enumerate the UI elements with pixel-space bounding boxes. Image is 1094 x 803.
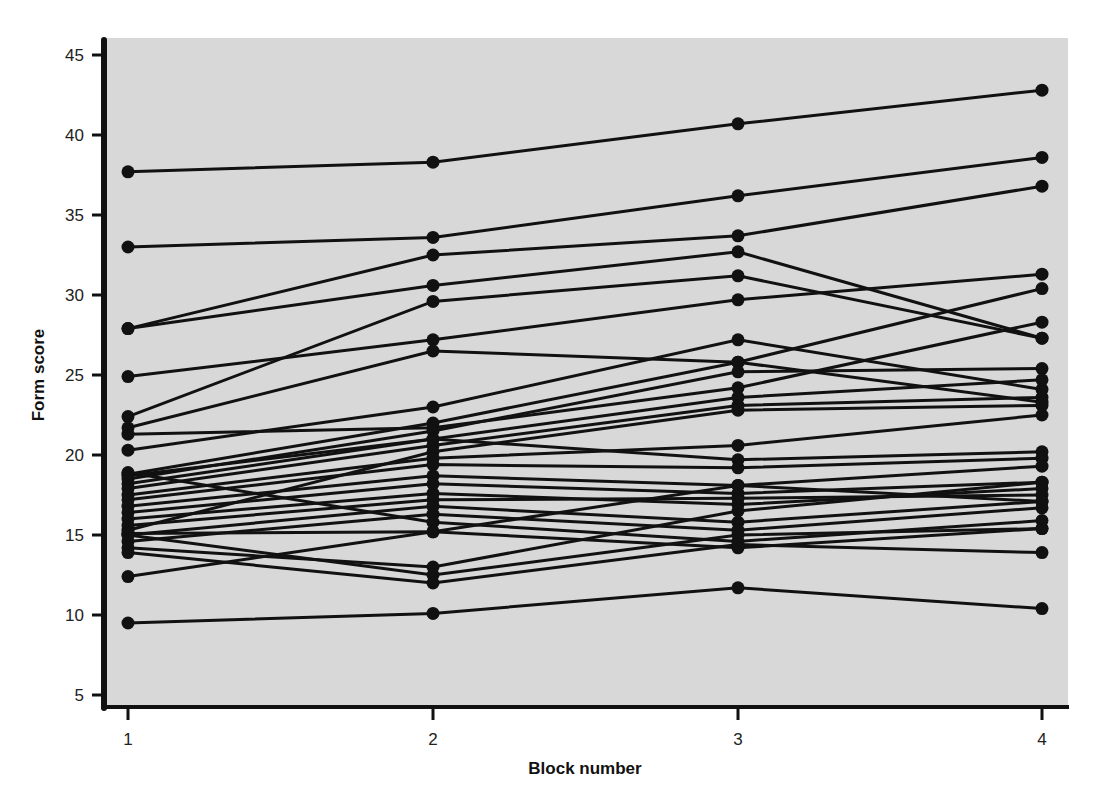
data-point (122, 466, 135, 479)
data-point (1036, 151, 1049, 164)
x-tick-label: 3 (733, 730, 742, 749)
data-point (1036, 522, 1049, 535)
y-axis-ticks: 51015202530354045 (65, 46, 104, 705)
y-axis-title: Form score (29, 329, 48, 422)
data-point (732, 492, 745, 505)
data-point (427, 458, 440, 471)
data-point (732, 117, 745, 130)
data-point (427, 525, 440, 538)
y-tick-label: 40 (65, 126, 84, 145)
data-point (427, 231, 440, 244)
data-point (427, 279, 440, 292)
data-point (122, 444, 135, 457)
data-point (1036, 84, 1049, 97)
data-point (1036, 602, 1049, 615)
data-point (732, 505, 745, 518)
data-point (122, 410, 135, 423)
y-tick-label: 45 (65, 46, 84, 65)
data-point (427, 249, 440, 262)
data-point (732, 189, 745, 202)
y-tick-label: 20 (65, 446, 84, 465)
data-point (122, 617, 135, 630)
data-point (732, 581, 745, 594)
data-point (427, 433, 440, 446)
data-point (732, 269, 745, 282)
y-tick-label: 15 (65, 526, 84, 545)
data-point (1036, 476, 1049, 489)
data-point (427, 156, 440, 169)
data-point (427, 345, 440, 358)
data-point (1036, 332, 1049, 345)
data-point (427, 401, 440, 414)
data-point (122, 428, 135, 441)
data-point (122, 370, 135, 383)
data-point (427, 295, 440, 308)
data-point (122, 241, 135, 254)
data-point (732, 439, 745, 452)
data-point (122, 322, 135, 335)
data-point (1036, 373, 1049, 386)
data-point (122, 546, 135, 559)
data-point (427, 577, 440, 590)
data-point (732, 365, 745, 378)
data-point (1036, 180, 1049, 193)
y-tick-label: 5 (75, 686, 84, 705)
data-point (732, 538, 745, 551)
data-point (122, 570, 135, 583)
x-axis-ticks: 1234 (123, 707, 1046, 749)
data-point (1036, 546, 1049, 559)
data-point (122, 529, 135, 542)
y-tick-label: 10 (65, 606, 84, 625)
data-point (122, 165, 135, 178)
data-point (427, 607, 440, 620)
data-point (1036, 362, 1049, 375)
data-point (1036, 282, 1049, 295)
data-point (732, 293, 745, 306)
data-point (1036, 316, 1049, 329)
data-point (732, 404, 745, 417)
data-point (732, 333, 745, 346)
x-axis-title: Block number (528, 759, 642, 778)
data-point (732, 479, 745, 492)
chart-canvas: 51015202530354045 1234 Block number Form… (0, 0, 1094, 803)
data-point (732, 461, 745, 474)
x-tick-label: 1 (123, 730, 132, 749)
data-point (732, 229, 745, 242)
x-tick-label: 2 (428, 730, 437, 749)
y-tick-label: 25 (65, 366, 84, 385)
y-tick-label: 30 (65, 286, 84, 305)
y-tick-label: 35 (65, 206, 84, 225)
data-point (1036, 268, 1049, 281)
data-point (427, 333, 440, 346)
data-point (1036, 495, 1049, 508)
data-point (732, 245, 745, 258)
x-tick-label: 4 (1037, 730, 1046, 749)
data-point (1036, 409, 1049, 422)
data-point (1036, 460, 1049, 473)
